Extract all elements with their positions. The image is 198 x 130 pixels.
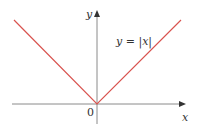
function-label-end: |: [148, 35, 152, 49]
chart-canvas: y x 0 y = |x|: [0, 0, 198, 130]
x-axis-arrow-icon: [179, 101, 186, 107]
origin-label: 0: [87, 106, 94, 119]
x-axis-label: x: [182, 111, 189, 124]
function-label: y = |x|: [115, 35, 152, 49]
y-axis-arrow-icon: [94, 10, 100, 17]
y-axis-label: y: [85, 8, 93, 21]
function-label-eq: = |: [122, 35, 142, 49]
